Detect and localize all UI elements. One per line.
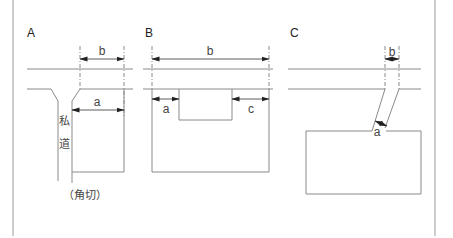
panel-c-dimension-a-label: a — [374, 125, 381, 139]
panel-a-label: A — [27, 26, 35, 40]
panel-b-dimension-b-label: b — [207, 44, 214, 58]
panel-c-road-right-edge — [385, 89, 421, 128]
panel-a-private-road-left-edge — [27, 89, 58, 181]
panel-b-dimension-a-label: a — [163, 102, 170, 116]
panel-b: B b a c — [143, 26, 273, 172]
panel-b-label: B — [145, 26, 153, 40]
panel-a-dimension-a-label: a — [94, 95, 101, 109]
panel-c: C b a — [288, 26, 421, 194]
private-road-char-2: 道 — [59, 137, 70, 151]
panel-c-road-left-edge — [288, 89, 385, 131]
panel-c-dimension-b-label: b — [389, 45, 396, 59]
panel-c-property — [306, 131, 421, 194]
panel-c-label: C — [290, 26, 299, 40]
panel-a: A b a 私 道 （角切） — [27, 26, 133, 202]
panel-b-dimension-c-label: c — [248, 102, 254, 116]
panel-a-dimension-b-label: b — [99, 44, 106, 58]
private-road-char-1: 私 — [59, 115, 70, 128]
corner-cut-note: （角切） — [63, 189, 107, 202]
panel-b-notch — [179, 89, 232, 120]
diagram-canvas: A b a 私 道 （角切） B b — [0, 0, 453, 238]
